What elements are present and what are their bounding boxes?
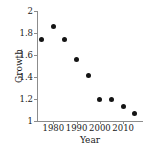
data-point [132,111,137,116]
y-axis-tick [34,99,37,100]
data-point [86,73,91,78]
data-point [51,24,56,29]
data-point [62,37,67,42]
y-axis-line [37,11,38,122]
x-axis-tick-label: 1990 [66,124,88,133]
x-axis-tick-label: 2000 [89,124,111,133]
y-axis-tick-label: 1.2 [19,95,33,104]
scatter-chart-figure: Growth 11.21.41.61.82 1980199020002010 Y… [0,0,150,154]
x-axis-title: Year [37,136,143,145]
y-axis-tick [34,77,37,78]
data-point [121,104,126,109]
y-axis-tick-label: 1.6 [19,51,33,60]
y-axis-tick-label: 1 [28,117,33,126]
y-axis-tick-label: 1.8 [19,29,33,38]
x-axis-tick-label: 1980 [42,124,64,133]
data-point [97,97,102,102]
x-axis-tick-label: 2010 [112,124,134,133]
y-axis-tick [34,55,37,56]
y-axis-tick-label: 1.4 [19,73,33,82]
y-axis-tick [34,121,37,122]
y-axis-tick [34,33,37,34]
data-point [74,57,79,62]
y-axis-tick-label: 2 [28,7,33,16]
data-point [39,37,44,42]
plot-area: 11.21.41.61.82 1980199020002010 [37,11,143,122]
data-point [109,97,114,102]
y-axis-tick [34,11,37,12]
